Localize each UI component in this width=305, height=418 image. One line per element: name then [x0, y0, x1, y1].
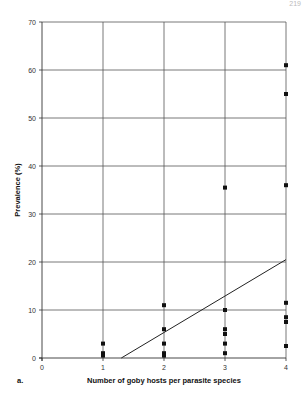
y-tick-label: 10 [28, 307, 36, 314]
data-point-marker [223, 342, 227, 346]
y-tick-label: 50 [28, 115, 36, 122]
data-point-marker [162, 327, 166, 331]
x-tick-label: 0 [40, 364, 44, 371]
data-points [101, 63, 288, 357]
data-point-marker [223, 308, 227, 312]
data-point-marker [101, 354, 105, 358]
data-point-marker [284, 301, 288, 305]
tick-labels: 01020304050607001234 [28, 19, 288, 372]
y-tick-label: 70 [28, 19, 36, 26]
y-tick-label: 20 [28, 259, 36, 266]
y-axis-title: Prevalence (%) [13, 163, 22, 217]
panel-label: a. [17, 376, 23, 385]
data-point-marker [223, 351, 227, 355]
data-point-marker [101, 342, 105, 346]
y-tick-label: 40 [28, 163, 36, 170]
gridlines [42, 22, 286, 358]
x-axis-title: Number of goby hosts per parasite specie… [87, 376, 241, 385]
data-point-marker [223, 186, 227, 190]
x-tick-label: 2 [162, 364, 166, 371]
x-tick-label: 4 [284, 364, 288, 371]
data-point-marker [284, 315, 288, 319]
data-point-marker [284, 344, 288, 348]
y-tick-label: 60 [28, 67, 36, 74]
data-point-marker [162, 342, 166, 346]
scatter-chart: 01020304050607001234 Prevalence (%) Numb… [0, 0, 305, 418]
data-point-marker [284, 92, 288, 96]
data-point-marker [284, 320, 288, 324]
x-tick-label: 1 [101, 364, 105, 371]
data-point-marker [162, 303, 166, 307]
data-point-marker [223, 327, 227, 331]
data-point-marker [284, 183, 288, 187]
data-point-marker [162, 354, 166, 358]
x-tick-label: 3 [223, 364, 227, 371]
regression-line [121, 260, 286, 358]
data-point-marker [223, 332, 227, 336]
data-point-marker [284, 63, 288, 67]
trendline [121, 260, 286, 358]
y-tick-label: 30 [28, 211, 36, 218]
y-tick-label: 0 [32, 355, 36, 362]
